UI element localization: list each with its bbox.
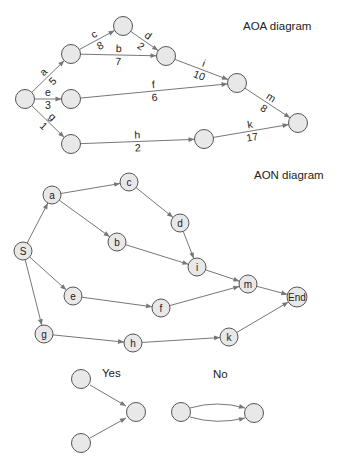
aon-edge-a-to-b bbox=[59, 200, 109, 236]
activity-name: h bbox=[134, 128, 140, 140]
aon-node-a: a bbox=[43, 186, 61, 204]
activity-duration: 10 bbox=[192, 67, 207, 82]
yes-label: Yes bbox=[102, 367, 121, 379]
aoa-title: AOA diagram bbox=[243, 20, 311, 32]
yes-node-top bbox=[72, 370, 91, 389]
aoa-activity-label-k: k17 bbox=[243, 117, 259, 144]
aon-node-label: d bbox=[177, 218, 183, 229]
yes-node-merge bbox=[127, 403, 146, 422]
aon-node-e: e bbox=[64, 287, 82, 305]
aon-node-label: e bbox=[70, 291, 76, 302]
aon-edges bbox=[25, 183, 288, 342]
activity-name: e bbox=[45, 86, 51, 98]
aon-edge-i-to-m bbox=[206, 270, 240, 281]
aon-edge-e-to-f bbox=[82, 297, 152, 307]
aon-node-c: c bbox=[120, 173, 138, 191]
aoa-diagram: AOA diagram a5c8b7d2e3f6g1h2i10m8k17 bbox=[16, 17, 312, 154]
aon-edge-c-to-d bbox=[136, 188, 173, 218]
aon-title: AON diagram bbox=[254, 169, 324, 181]
activity-name: k bbox=[246, 118, 254, 131]
aoa-activity-label-c: c8 bbox=[88, 27, 105, 52]
activity-duration: 6 bbox=[151, 91, 158, 104]
aoa-activity-label-b: b7 bbox=[115, 42, 122, 67]
no-node-start bbox=[172, 403, 191, 422]
aon-node-d: d bbox=[171, 214, 189, 232]
activity-name: b bbox=[116, 42, 122, 54]
aoa-event-node bbox=[195, 130, 214, 149]
aon-edge-g-to-h bbox=[53, 335, 124, 342]
yes-node-bottom bbox=[72, 434, 91, 453]
activity-name: c bbox=[89, 27, 99, 40]
aoa-event-node bbox=[62, 90, 81, 109]
activity-duration: 1 bbox=[38, 119, 51, 132]
aon-node-b: b bbox=[108, 233, 126, 251]
no-node-end bbox=[245, 404, 264, 423]
activity-name: i bbox=[201, 57, 207, 69]
aon-edge-f-to-m bbox=[170, 286, 240, 305]
aon-edge-a-to-c bbox=[61, 183, 120, 193]
aon-edge-m-to-End bbox=[257, 286, 288, 294]
no-edge-upper bbox=[190, 404, 245, 408]
aoa-event-node bbox=[114, 17, 133, 36]
aon-node-label: S bbox=[20, 246, 27, 257]
aoa-activity-label-e: e3 bbox=[45, 86, 51, 111]
aon-edge-d-to-i bbox=[183, 231, 194, 258]
aoa-event-node bbox=[289, 114, 308, 133]
aon-edge-k-to-End bbox=[237, 302, 289, 332]
yes-edge-bottom bbox=[90, 418, 126, 438]
aon-node-label: i bbox=[196, 262, 198, 273]
aon-edge-S-to-g bbox=[25, 260, 42, 326]
aon-node-k: k bbox=[220, 328, 238, 346]
aon-node-g: g bbox=[35, 325, 53, 343]
activity-duration: 8 bbox=[258, 101, 270, 114]
aoa-activity-label-d: d2 bbox=[135, 29, 154, 53]
aon-nodes: SacbdiefmEndghk bbox=[14, 173, 307, 352]
aon-node-s: S bbox=[14, 242, 32, 260]
aon-node-i: i bbox=[188, 258, 206, 276]
activity-duration: 2 bbox=[135, 141, 141, 153]
aon-edge-b-to-i bbox=[126, 245, 189, 265]
network-diagram: AOA diagram a5c8b7d2e3f6g1h2i10m8k17 AON… bbox=[0, 0, 341, 464]
yes-edge-top bbox=[90, 385, 126, 406]
aon-node-label: a bbox=[49, 190, 55, 201]
dummy-activity-examples: Yes No bbox=[72, 367, 264, 453]
aoa-event-node bbox=[157, 47, 176, 66]
no-label: No bbox=[213, 368, 228, 380]
aon-edge-h-to-k bbox=[142, 338, 220, 343]
aon-node-label: f bbox=[160, 303, 163, 314]
aoa-event-node bbox=[228, 74, 247, 93]
aon-node-label: c bbox=[127, 177, 132, 188]
aon-edge-S-to-e bbox=[30, 257, 67, 290]
activity-duration: 7 bbox=[115, 55, 121, 67]
activity-duration: 8 bbox=[94, 39, 105, 52]
activity-duration: 17 bbox=[245, 130, 259, 144]
aon-node-label: b bbox=[114, 237, 120, 248]
aon-node-label: g bbox=[41, 329, 47, 340]
aon-diagram: AON diagram SacbdiefmEndghk bbox=[14, 169, 324, 352]
aon-node-label: h bbox=[130, 338, 136, 349]
aoa-activity-label-h: h2 bbox=[134, 128, 141, 153]
aoa-event-node bbox=[62, 135, 81, 154]
aon-node-end: End bbox=[287, 287, 307, 307]
aoa-activity-label-i: i10 bbox=[192, 55, 212, 83]
aon-node-label: End bbox=[288, 292, 306, 303]
aon-edge-S-to-a bbox=[27, 203, 48, 243]
activity-duration: 3 bbox=[45, 99, 51, 111]
aon-node-label: m bbox=[244, 279, 252, 290]
aoa-activity-label-m: m8 bbox=[257, 90, 278, 116]
activity-name: f bbox=[151, 78, 155, 90]
aon-node-m: m bbox=[239, 275, 257, 293]
aon-node-h: h bbox=[124, 334, 142, 352]
aoa-event-node bbox=[62, 45, 81, 64]
no-edge-lower bbox=[190, 417, 245, 421]
activity-duration: 2 bbox=[135, 39, 147, 52]
aoa-event-node bbox=[16, 90, 35, 109]
aon-node-f: f bbox=[152, 299, 170, 317]
